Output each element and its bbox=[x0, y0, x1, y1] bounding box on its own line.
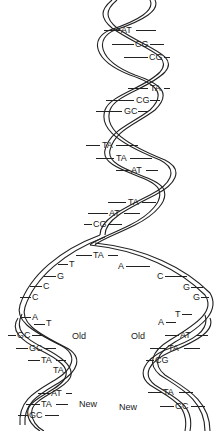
new-strand-label-left: New bbox=[79, 400, 97, 409]
base-pair-label: AT bbox=[180, 331, 191, 340]
base-pair-label: TA bbox=[163, 388, 174, 397]
base-pair-label: CG bbox=[93, 220, 107, 229]
base-label: T bbox=[69, 260, 75, 269]
bond-line bbox=[108, 224, 122, 225]
bond-line bbox=[124, 57, 148, 58]
bond-line bbox=[126, 266, 150, 267]
bond-line bbox=[150, 44, 164, 45]
bond-line bbox=[20, 297, 31, 298]
bond-line bbox=[44, 348, 56, 349]
bond-line bbox=[84, 224, 92, 225]
base-pair-label: TA bbox=[150, 84, 161, 93]
bond-line bbox=[16, 348, 28, 349]
bond-line bbox=[45, 415, 59, 416]
base-pair-label: TA bbox=[41, 356, 52, 365]
bond-line bbox=[146, 170, 158, 171]
bond-line bbox=[179, 392, 193, 393]
bond-line bbox=[196, 335, 208, 336]
bond-line bbox=[128, 88, 148, 89]
bond-line bbox=[146, 360, 154, 361]
bond-line bbox=[142, 202, 156, 203]
base-pair-label: CG bbox=[155, 356, 169, 365]
base-pair-label: TA bbox=[41, 400, 52, 409]
base-pair-label: AT bbox=[131, 166, 142, 175]
bond-line bbox=[165, 335, 179, 336]
bond-line bbox=[56, 404, 68, 405]
bond-line bbox=[160, 406, 174, 407]
bond-line bbox=[30, 286, 42, 287]
bond-line bbox=[136, 30, 156, 31]
fork-base-pair-label: TA bbox=[93, 251, 104, 260]
bond-line bbox=[76, 255, 92, 256]
bond-line bbox=[116, 145, 138, 146]
base-label: C bbox=[32, 293, 39, 302]
base-pair-label: GC bbox=[175, 402, 189, 411]
bond-line bbox=[44, 276, 56, 277]
base-label: C bbox=[157, 272, 164, 281]
bond-line bbox=[182, 314, 192, 315]
base-label: T bbox=[46, 319, 52, 328]
bond-line bbox=[88, 213, 108, 214]
bond-line bbox=[166, 322, 176, 323]
base-pair-label: GC bbox=[29, 344, 43, 353]
old-strand-label-right: Old bbox=[131, 332, 145, 341]
base-label: G bbox=[57, 272, 64, 281]
base-label: A bbox=[118, 262, 124, 271]
bond-line bbox=[96, 111, 122, 112]
base-label: G bbox=[183, 283, 190, 292]
bond-line bbox=[104, 30, 120, 31]
bond-line bbox=[150, 100, 160, 101]
bond-line bbox=[201, 297, 209, 298]
base-pair-label: CG bbox=[136, 96, 150, 105]
base-pair-label: GC bbox=[124, 107, 138, 116]
bond-line bbox=[18, 415, 28, 416]
bond-line bbox=[26, 404, 40, 405]
bond-line bbox=[32, 335, 42, 336]
bond-line bbox=[86, 145, 100, 146]
base-pair-label: AT bbox=[121, 26, 132, 35]
base-pair-label: TA bbox=[128, 198, 139, 207]
bond-line bbox=[116, 170, 130, 171]
bond-line bbox=[20, 317, 31, 318]
base-pair-label: GC bbox=[29, 411, 43, 420]
bond-line bbox=[164, 57, 170, 58]
bond-line bbox=[108, 202, 126, 203]
bond-line bbox=[191, 406, 205, 407]
base-label: C bbox=[43, 282, 50, 291]
base-pair-label: TA bbox=[53, 366, 64, 375]
bond-line bbox=[150, 348, 166, 349]
base-label: A bbox=[32, 313, 38, 322]
new-strand-label-right: New bbox=[119, 403, 137, 412]
bond-line bbox=[130, 158, 152, 159]
base-pair-label: CG bbox=[135, 40, 149, 49]
bond-line bbox=[96, 158, 114, 159]
base-label: T bbox=[175, 310, 181, 319]
bond-line bbox=[66, 393, 72, 394]
base-pair-label: AT bbox=[109, 209, 120, 218]
old-strand-label-left: Old bbox=[72, 332, 86, 341]
bond-line bbox=[58, 264, 68, 265]
base-pair-label: TA bbox=[116, 154, 127, 163]
bond-line bbox=[34, 324, 45, 325]
bond-line bbox=[148, 392, 162, 393]
bond-line bbox=[56, 360, 66, 361]
bond-line bbox=[138, 111, 148, 112]
base-pair-label: TA bbox=[102, 141, 113, 150]
bond-line bbox=[108, 255, 118, 256]
bond-line bbox=[8, 335, 16, 336]
base-pair-label: GC bbox=[17, 331, 31, 340]
base-pair-label: AT bbox=[51, 389, 62, 398]
base-label: A bbox=[158, 318, 164, 327]
bond-line bbox=[106, 100, 134, 101]
base-pair-label: CG bbox=[149, 53, 163, 62]
base-pair-label: TA bbox=[168, 344, 179, 353]
bond-line bbox=[184, 348, 200, 349]
base-label: G bbox=[193, 293, 200, 302]
bond-line bbox=[38, 393, 50, 394]
bond-line bbox=[28, 360, 40, 361]
bond-line bbox=[165, 276, 187, 277]
bond-line bbox=[112, 44, 134, 45]
bond-line bbox=[164, 88, 170, 89]
bond-line bbox=[124, 213, 140, 214]
bond-line bbox=[191, 287, 203, 288]
